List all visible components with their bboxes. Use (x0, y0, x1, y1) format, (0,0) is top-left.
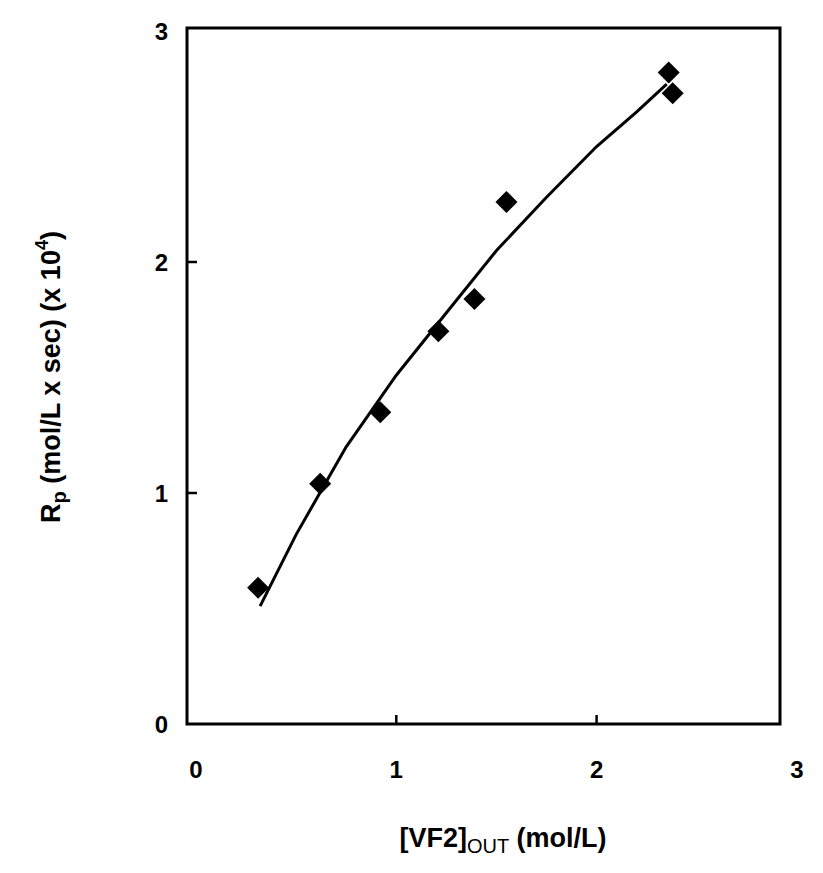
y-tick-label: 1 (155, 480, 168, 507)
data-markers (247, 62, 684, 599)
chart: 01230123 [VF2]OUT (mol/L) Rp (mol/L x se… (0, 0, 823, 873)
y-tick-label: 2 (155, 249, 168, 276)
y-tick-label: 3 (155, 18, 168, 45)
axis-ticks (187, 262, 597, 724)
tick-labels: 01230123 (155, 18, 804, 783)
x-tick-label: 2 (590, 756, 603, 783)
fit-curve (260, 84, 667, 606)
diamond-marker (369, 401, 391, 423)
diamond-marker (427, 320, 449, 342)
plot-frame (187, 28, 780, 724)
y-axis-title: Rp (mol/L x sec) (x 104) (32, 231, 70, 523)
diamond-marker (495, 191, 517, 213)
diamond-marker (658, 62, 680, 84)
x-axis-title: [VF2]OUT (mol/L) (399, 823, 606, 857)
x-tick-label: 0 (189, 756, 202, 783)
x-tick-label: 3 (790, 756, 803, 783)
x-tick-label: 1 (390, 756, 403, 783)
y-tick-label: 0 (155, 711, 168, 738)
diamond-marker (463, 288, 485, 310)
